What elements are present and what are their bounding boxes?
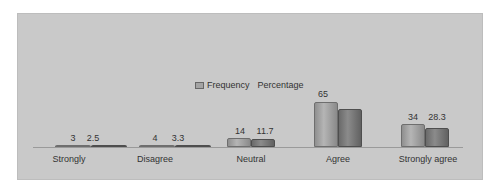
category-label: Agree bbox=[293, 154, 383, 164]
bar-frequency-agree bbox=[314, 102, 338, 147]
legend-label-percentage: Percentage bbox=[258, 80, 304, 90]
bar-frequency-strongly-agree bbox=[401, 124, 425, 147]
bar-percentage-strongly bbox=[91, 145, 127, 147]
legend-item-frequency: Frequency bbox=[195, 80, 250, 90]
value-label: 2.5 bbox=[78, 133, 108, 143]
category-label: Strongly agree bbox=[383, 154, 473, 164]
category-label: Neutral bbox=[206, 154, 296, 164]
legend-item-percentage: Percentage bbox=[258, 80, 304, 90]
bar-percentage-agree bbox=[338, 109, 362, 147]
category-label: Disagree bbox=[110, 154, 200, 164]
legend-label-frequency: Frequency bbox=[207, 80, 250, 90]
x-axis-line bbox=[33, 147, 463, 148]
category-label: Strongly bbox=[24, 154, 114, 164]
legend: Frequency Percentage bbox=[195, 80, 312, 90]
bar-percentage-strongly-agree bbox=[425, 128, 449, 147]
bar-percentage-disagree bbox=[175, 145, 211, 147]
bar-frequency-strongly bbox=[55, 145, 91, 147]
bar-frequency-neutral bbox=[227, 138, 251, 147]
frequency-swatch-icon bbox=[195, 82, 204, 89]
value-label: 3.3 bbox=[163, 133, 193, 143]
bar-frequency-disagree bbox=[139, 145, 175, 147]
value-label: 65 bbox=[308, 89, 338, 99]
bar-percentage-neutral bbox=[251, 139, 275, 147]
value-label: 28.3 bbox=[422, 112, 452, 122]
value-label: 11.7 bbox=[250, 126, 280, 136]
chart-area: Frequency Percentage 3 2.5 Strongly 4 3.… bbox=[17, 13, 483, 180]
